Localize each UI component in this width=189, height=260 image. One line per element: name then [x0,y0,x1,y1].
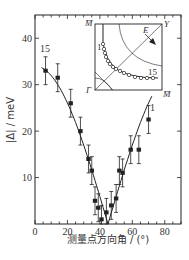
data-point [109,191,113,219]
data-point [120,159,124,187]
inset-label-e: E [142,25,149,35]
data-point [137,136,141,164]
annotation-1: 1 [150,102,155,113]
inset-label-m-top: M̄ [84,18,93,28]
inset-point [139,76,142,79]
y-axis-title: |Δ| / meV [5,97,17,143]
inset-point [101,42,104,45]
inset-point [102,47,105,50]
annotation-15: 15 [40,43,50,54]
data-point [43,57,47,85]
inset-label-y: Y [164,19,170,29]
inset-label-start: 1 [97,42,102,52]
inset-point [108,62,111,65]
data-point [104,198,108,224]
chart: 020406080 10203040 测量点方向角 / (°) |Δ| / me… [0,0,189,260]
y-tick-label: 30 [22,79,32,90]
inset-point [114,67,117,70]
inset-point [122,71,125,74]
y-tick-label: 20 [22,126,32,137]
x-tick-label: 0 [33,226,38,237]
inset-label-end: 15 [148,67,158,77]
inset-point [127,73,130,76]
inset-point [118,69,121,72]
inset-brillouin-zone: E M̄ Γ Y M̄ 1 15 [84,18,171,99]
inset-label-gamma: Γ [85,85,92,95]
x-axis-title: 测量点方向角 / (°) [67,233,150,245]
inset-point [133,75,136,78]
inset-point [104,55,107,58]
y-tick-label: 10 [22,172,32,183]
data-point [129,136,133,164]
inset-point [103,51,106,54]
data-point [114,185,118,213]
y-tick-labels: 10203040 [22,33,32,183]
x-tick-label: 80 [160,226,170,237]
y-tick-label: 40 [22,33,32,44]
data-point [93,187,97,215]
inset-label-m-right: M̄ [162,89,171,99]
